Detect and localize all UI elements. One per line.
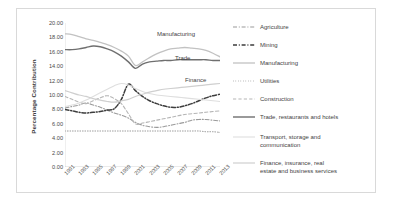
y-tick-label: 4.00 bbox=[29, 135, 63, 141]
legend-item[interactable]: Mining bbox=[233, 41, 373, 49]
legend-label: Agriculture bbox=[260, 23, 289, 31]
legend-item[interactable]: Manufacturing bbox=[233, 59, 373, 67]
y-tick-label: 6.00 bbox=[29, 121, 63, 127]
legend-item[interactable]: Construction bbox=[233, 95, 373, 103]
legend-item[interactable]: Finance, insurance, real estate and busi… bbox=[233, 159, 373, 175]
series-line bbox=[65, 103, 220, 127]
legend-item[interactable]: Transport, storage and communication bbox=[233, 133, 373, 149]
y-tick-label: 18.00 bbox=[29, 34, 63, 40]
legend-label: Utilities bbox=[260, 77, 279, 85]
y-tick-label: 16.00 bbox=[29, 49, 63, 55]
legend-swatch-icon bbox=[233, 59, 255, 67]
series-line bbox=[65, 131, 220, 132]
chart-legend: AgricultureMiningManufacturingUtilitiesC… bbox=[233, 19, 373, 191]
legend-swatch-icon bbox=[233, 23, 255, 31]
y-tick-label: 10.00 bbox=[29, 92, 63, 98]
legend-swatch-icon bbox=[233, 95, 255, 103]
x-axis-ticks: 1991199319951997199920012003200520072009… bbox=[65, 169, 230, 193]
legend-item[interactable]: Agriculture bbox=[233, 23, 373, 31]
y-tick-label: 14.00 bbox=[29, 63, 63, 69]
series-svg bbox=[65, 23, 220, 167]
legend-label: Transport, storage and communication bbox=[260, 133, 320, 149]
series-annotation: Finance bbox=[185, 77, 206, 83]
legend-swatch-icon bbox=[233, 41, 255, 49]
y-tick-label: 0.00 bbox=[29, 164, 63, 170]
series-line bbox=[65, 46, 220, 68]
legend-swatch-icon bbox=[233, 133, 255, 141]
series-line bbox=[65, 34, 220, 66]
legend-swatch-icon bbox=[233, 159, 255, 167]
plot-area bbox=[65, 23, 220, 167]
data-series-group bbox=[65, 34, 220, 133]
series-annotation: Trade bbox=[175, 55, 190, 61]
plot-area-wrapper: Percentage Contribution 20.0018.0016.001… bbox=[17, 9, 232, 192]
legend-item[interactable]: Trade, restaurants and hotels bbox=[233, 113, 373, 121]
legend-label: Mining bbox=[260, 41, 278, 49]
legend-label: Manufacturing bbox=[260, 59, 298, 67]
y-tick-label: 8.00 bbox=[29, 106, 63, 112]
y-tick-label: 2.00 bbox=[29, 150, 63, 156]
y-tick-label: 12.00 bbox=[29, 78, 63, 84]
legend-swatch-icon bbox=[233, 77, 255, 85]
legend-label: Trade, restaurants and hotels bbox=[260, 113, 338, 121]
legend-label: Construction bbox=[260, 95, 294, 103]
y-tick-label: 20.00 bbox=[29, 20, 63, 26]
legend-item[interactable]: Utilities bbox=[233, 77, 373, 85]
legend-swatch-icon bbox=[233, 113, 255, 121]
chart-figure: Percentage Contribution 20.0018.0016.001… bbox=[16, 8, 376, 193]
y-axis-ticks: 20.0018.0016.0014.0012.0010.008.006.004.… bbox=[29, 9, 63, 192]
legend-label: Finance, insurance, real estate and busi… bbox=[260, 159, 337, 175]
series-annotation: Manufacturing bbox=[157, 31, 195, 37]
